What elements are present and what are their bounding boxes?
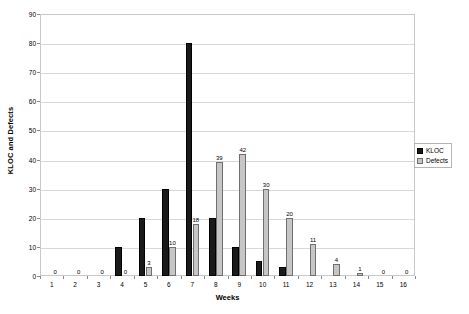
y-tick-mark [37,247,40,248]
chart-legend: KLOCDefects [414,143,452,168]
bar-chart: KLOC and Defects 00003101839423020114100… [0,0,469,314]
x-tick-mark [251,276,252,279]
y-tick-mark [37,43,40,44]
x-tick-label: 7 [191,281,195,288]
x-tick-mark [368,276,369,279]
x-tick-label: 10 [259,281,266,288]
x-tick-mark [134,276,135,279]
x-tick-label: 9 [237,281,241,288]
x-tick-label: 1 [50,281,54,288]
x-tick-label: 15 [376,281,383,288]
y-tick-label: 70 [6,69,40,76]
y-axis-title-text: KLOC and Defects [7,106,16,173]
x-tick-mark [204,276,205,279]
y-tick-label: 0 [6,273,40,280]
y-tick-label: 90 [6,11,40,18]
x-tick-mark [181,276,182,279]
y-tick-mark [37,160,40,161]
x-tick-mark [63,276,64,279]
y-tick-label: 20 [6,214,40,221]
gridline [41,44,414,45]
y-tick-label: 30 [6,185,40,192]
y-tick-mark [37,72,40,73]
x-tick-label: 2 [73,281,77,288]
plot-area [40,14,415,276]
x-tick-label: 3 [97,281,101,288]
x-tick-mark [157,276,158,279]
x-tick-mark [110,276,111,279]
y-tick-mark [37,218,40,219]
legend-swatch-icon [417,158,423,164]
x-tick-label: 4 [120,281,124,288]
x-tick-label: 16 [400,281,407,288]
gridline [41,131,414,132]
gridline [41,190,414,191]
y-tick-mark [37,14,40,15]
x-tick-mark [321,276,322,279]
y-tick-label: 40 [6,156,40,163]
x-tick-label: 12 [306,281,313,288]
x-tick-mark [228,276,229,279]
x-tick-label: 14 [353,281,360,288]
x-tick-label: 8 [214,281,218,288]
y-tick-mark [37,101,40,102]
y-tick-mark [37,130,40,131]
gridline [41,248,414,249]
x-tick-mark [415,276,416,279]
x-tick-mark [274,276,275,279]
x-tick-mark [298,276,299,279]
legend-item-defects[interactable]: Defects [417,156,448,165]
x-axis-title: Weeks [40,293,415,302]
legend-label: KLOC [426,147,444,154]
legend-item-kloc[interactable]: KLOC [417,146,448,155]
x-tick-mark [87,276,88,279]
x-tick-label: 5 [144,281,148,288]
legend-label: Defects [426,157,448,164]
x-tick-label: 13 [329,281,336,288]
y-tick-label: 80 [6,40,40,47]
gridline [41,219,414,220]
gridline [41,161,414,162]
x-tick-label: 11 [283,281,290,288]
legend-swatch-icon [417,148,423,154]
gridline [41,73,414,74]
y-tick-label: 60 [6,98,40,105]
x-tick-mark [345,276,346,279]
gridline [41,102,414,103]
y-tick-label: 10 [6,243,40,250]
x-tick-label: 6 [167,281,171,288]
y-tick-mark [37,189,40,190]
y-tick-label: 50 [6,127,40,134]
x-tick-mark [392,276,393,279]
x-tick-mark [40,276,41,279]
